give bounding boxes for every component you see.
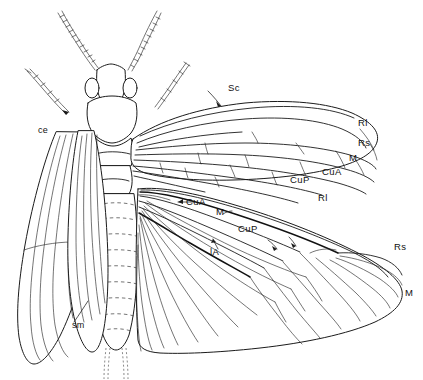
- antenna-left: [58, 11, 99, 70]
- label-m-hindwing: M: [216, 206, 224, 217]
- label-m-forewing: M: [349, 152, 357, 163]
- label-cua-hindwing: CuA: [186, 196, 206, 207]
- label-rs-forewing: Rs: [358, 137, 370, 148]
- insect-venation-figure: Sc Rl Rs M CuA CuP CuA M CuP lA Rl Rs M …: [0, 0, 423, 380]
- hindwing-right: [136, 188, 402, 353]
- head: [97, 64, 126, 98]
- label-cua-forewing: CuA: [322, 166, 342, 177]
- label-rs-hindwing: Rs: [394, 241, 406, 252]
- label-cup-hindwing: CuP: [238, 223, 258, 234]
- insect-diagram-svg: Sc Rl Rs M CuA CuP CuA M CuP lA Rl Rs M …: [0, 0, 423, 380]
- cercus-left: [104, 348, 110, 379]
- eye-left: [85, 78, 99, 98]
- label-ce: ce: [38, 125, 48, 135]
- wings-left: [18, 131, 108, 364]
- label-m-hindwing-apex: M: [405, 287, 413, 298]
- label-sc: Sc: [228, 82, 240, 93]
- forewing-right: [131, 91, 378, 203]
- label-a1-hindwing: lA: [210, 246, 220, 257]
- palp-left: [25, 69, 69, 114]
- eye-right: [123, 78, 137, 98]
- palp-right: [155, 62, 190, 109]
- label-sm: sm: [72, 320, 85, 330]
- label-cup-forewing: CuP: [290, 174, 310, 185]
- label-r1-hindwing: Rl: [318, 192, 328, 203]
- label-r1-forewing: Rl: [358, 117, 368, 128]
- antenna-right: [128, 11, 161, 71]
- cercus-right: [122, 348, 128, 379]
